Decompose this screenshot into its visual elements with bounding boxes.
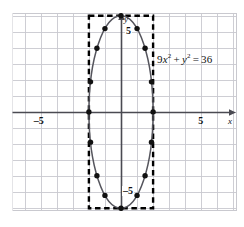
x-axis-label: x: [228, 116, 232, 126]
ellipse-graph-figure: 9x2+y2=36 –5 5 5 –5 x y: [0, 0, 244, 227]
data-point: [118, 13, 123, 18]
equation-x-exponent: 2: [168, 52, 172, 60]
data-point: [102, 193, 107, 198]
data-point: [149, 139, 154, 144]
equation-annotation: 9x2+y2=36: [157, 52, 213, 65]
data-point: [102, 26, 107, 31]
data-point: [134, 26, 139, 31]
equation-right-hand-side: 36: [201, 53, 212, 65]
data-point: [134, 193, 139, 198]
y-axis-tick-label-negative-5: –5: [122, 186, 134, 196]
y-axis-tick-label-positive-5: 5: [125, 26, 132, 36]
data-point: [88, 79, 93, 84]
data-point: [118, 206, 123, 211]
equation-equals-sign: =: [191, 53, 201, 65]
data-point: [142, 173, 147, 178]
data-point: [88, 139, 93, 144]
data-point: [86, 109, 91, 114]
x-axis-tick-label-negative-5: –5: [34, 115, 44, 126]
data-point: [94, 46, 99, 51]
y-axis-label: y: [124, 14, 128, 24]
x-axis-tick-label-positive-5: 5: [198, 115, 203, 126]
data-point: [149, 79, 154, 84]
equation-plus-sign: +: [172, 53, 182, 65]
data-point: [150, 109, 155, 114]
data-point: [94, 173, 99, 178]
data-point: [142, 46, 147, 51]
